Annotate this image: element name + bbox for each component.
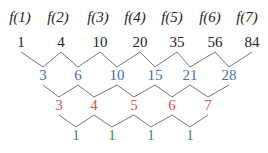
connector-line (208, 85, 229, 97)
first-differences-item: 10 (110, 67, 125, 83)
function-labels-item: f(6) (199, 9, 221, 26)
connector-line (117, 52, 140, 67)
function-labels-item: f(4) (124, 9, 146, 26)
function-labels-item: f(1) (9, 9, 31, 26)
connector-line (134, 85, 155, 97)
values-item: 56 (208, 34, 224, 50)
connector-line (43, 85, 59, 97)
connector-line (172, 85, 190, 97)
values-item: 1 (17, 34, 25, 50)
connector-line (94, 85, 117, 97)
connector-line (59, 115, 76, 127)
values-item: 84 (245, 34, 261, 50)
second-differences-item: 7 (204, 97, 212, 113)
first-differences-item: 21 (183, 67, 198, 83)
third-differences-item: 1 (72, 127, 80, 143)
connector-line (172, 115, 190, 127)
connector-line (112, 115, 134, 127)
connector-line (151, 115, 172, 127)
values-item: 4 (57, 34, 65, 50)
connector-line (134, 115, 151, 127)
third-differences-item: 1 (186, 127, 194, 143)
third-differences-item: 1 (108, 127, 116, 143)
connector-line (76, 115, 94, 127)
third-differences-item: 1 (147, 127, 155, 143)
connector-line (78, 52, 100, 67)
connector-line (177, 52, 190, 67)
connector-line (61, 52, 78, 67)
connector-line (43, 52, 61, 67)
connector-line (229, 52, 252, 67)
values-item: 10 (93, 34, 108, 50)
values-item: 35 (170, 34, 185, 50)
first-differences-item: 6 (74, 67, 82, 83)
second-differences-item: 3 (55, 97, 63, 113)
difference-table-diagram: f(1)f(2)f(3)f(4)f(5)f(6)f(7)141020355684… (0, 0, 268, 153)
second-differences-item: 4 (90, 97, 98, 113)
connector-line (140, 52, 155, 67)
function-labels-item: f(5) (161, 9, 183, 26)
connector-line (190, 85, 208, 97)
connector-line (155, 52, 177, 67)
connector-line (100, 52, 117, 67)
function-labels-item: f(7) (236, 9, 258, 26)
first-differences-item: 15 (148, 67, 163, 83)
first-differences-item: 3 (39, 67, 47, 83)
function-labels-item: f(3) (87, 9, 109, 26)
connector-line (59, 85, 78, 97)
connector-line (155, 85, 172, 97)
second-differences-item: 5 (130, 97, 138, 113)
connector-line (117, 85, 134, 97)
connector-line (21, 52, 43, 67)
connector-line (94, 115, 112, 127)
first-differences-item: 28 (222, 67, 237, 83)
connector-line (78, 85, 94, 97)
function-labels-item: f(2) (47, 9, 69, 26)
connector-line (215, 52, 229, 67)
connector-line (190, 115, 208, 127)
second-differences-item: 6 (168, 97, 176, 113)
values-item: 20 (133, 34, 148, 50)
connector-line (190, 52, 215, 67)
